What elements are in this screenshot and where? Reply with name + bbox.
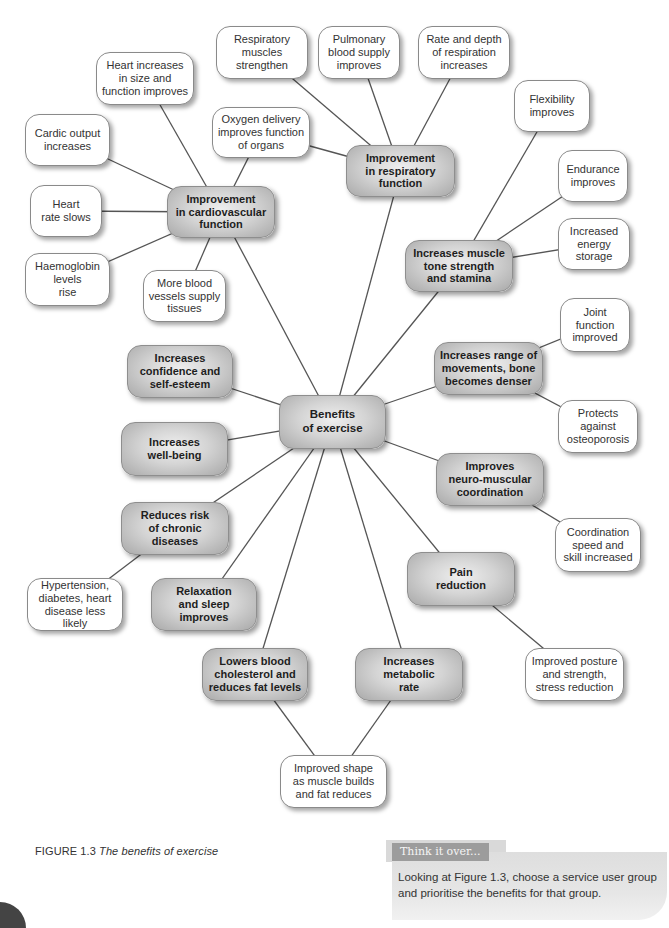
node-wellbeing: Increases well-being xyxy=(121,422,228,476)
node-muscle: Increases muscle tone strength and stami… xyxy=(405,240,513,292)
node-label: Increases well-being xyxy=(148,436,202,462)
node-label: Heart increases in size and function imp… xyxy=(102,59,188,98)
node-energy: Increased energy storage xyxy=(558,218,630,270)
node-metabolic: Increases metabolic rate xyxy=(355,648,463,701)
node-label: Increases metabolic rate xyxy=(383,655,434,694)
node-label: Improvement in cardiovascular function xyxy=(176,193,267,232)
node-label: Improvement in respiratory function xyxy=(365,152,435,191)
node-joint: Joint function improved xyxy=(560,298,630,352)
node-heart-rate: Heart rate slows xyxy=(30,185,102,237)
node-label: Benefits of exercise xyxy=(302,408,362,435)
node-pulmonary: Pulmonary blood supply improves xyxy=(318,26,400,79)
node-neuro: Improves neuro-muscular coordination xyxy=(436,453,544,506)
node-label: Rate and depth of respiration increases xyxy=(426,33,501,72)
node-cholesterol: Lowers blood cholesterol and reduces fat… xyxy=(202,648,308,701)
figure-number: FIGURE 1.3 xyxy=(35,845,96,857)
node-label: Heart rate slows xyxy=(41,198,91,224)
node-label: Increases confidence and self-esteem xyxy=(140,352,221,391)
node-label: Haemoglobin levels rise xyxy=(35,260,100,299)
node-resp-muscles: Respiratory muscles strengthen xyxy=(216,26,308,79)
figure-caption: FIGURE 1.3 The benefits of exercise xyxy=(35,845,218,857)
node-label: Improved posture and strength, stress re… xyxy=(532,655,618,694)
node-label: Increased energy storage xyxy=(570,225,618,264)
node-label: Cardic output increases xyxy=(35,127,100,153)
node-label: Improves neuro-muscular coordination xyxy=(448,460,531,499)
think-it-over-box: Think it over... Looking at Figure 1.3, … xyxy=(386,840,667,918)
node-label: Reduces risk of chronic diseases xyxy=(141,509,209,548)
page-corner-decoration xyxy=(0,902,26,928)
node-label: Protects against osteoporosis xyxy=(567,407,629,446)
node-label: Increases muscle tone strength and stami… xyxy=(413,247,505,286)
node-cardic-output: Cardic output increases xyxy=(25,114,110,166)
node-label: Pulmonary blood supply improves xyxy=(328,33,390,72)
node-flexibility: Flexibility improves xyxy=(514,80,590,132)
think-title: Think it over... xyxy=(392,843,489,861)
node-shape: Improved shape as muscle builds and fat … xyxy=(280,755,387,808)
node-osteoporosis: Protects against osteoporosis xyxy=(558,400,638,453)
node-confidence: Increases confidence and self-esteem xyxy=(127,345,233,398)
node-benefits: Benefits of exercise xyxy=(279,395,386,449)
node-label: Improved shape as muscle builds and fat … xyxy=(293,762,374,801)
node-label: Relaxation and sleep improves xyxy=(176,585,232,624)
node-label: More blood vessels supply tissues xyxy=(149,277,221,316)
node-coordination: Coordination speed and skill increased xyxy=(555,518,641,572)
think-text: Looking at Figure 1.3, choose a service … xyxy=(398,869,660,901)
node-hypertension: Hypertension, diabetes, heart disease le… xyxy=(27,578,123,631)
node-label: Pain reduction xyxy=(436,566,486,592)
node-haemoglobin: Haemoglobin levels rise xyxy=(25,253,110,306)
node-heart-size: Heart increases in size and function imp… xyxy=(96,52,194,105)
connector-line xyxy=(333,422,410,675)
node-relax: Relaxation and sleep improves xyxy=(151,578,257,631)
node-label: Hypertension, diabetes, heart disease le… xyxy=(32,579,118,631)
mind-map-diagram: Benefits of exerciseImprovement in cardi… xyxy=(0,0,669,830)
node-label: Respiratory muscles strengthen xyxy=(234,33,290,72)
node-posture: Improved posture and strength, stress re… xyxy=(525,648,624,701)
node-oxygen: Oxygen delivery improves function of org… xyxy=(212,107,310,158)
node-range: Increases range of movements, bone becom… xyxy=(434,342,543,395)
node-cardio: Improvement in cardiovascular function xyxy=(167,186,275,238)
node-label: Flexibility improves xyxy=(529,93,574,119)
node-rate-depth: Rate and depth of respiration increases xyxy=(418,26,510,79)
node-label: Endurance improves xyxy=(566,163,619,189)
node-blood-vessels: More blood vessels supply tissues xyxy=(143,270,226,322)
node-chronic: Reduces risk of chronic diseases xyxy=(121,502,229,555)
node-resp: Improvement in respiratory function xyxy=(346,145,455,197)
node-label: Joint function improved xyxy=(572,306,617,345)
node-label: Coordination speed and skill increased xyxy=(563,526,632,565)
node-endurance: Endurance improves xyxy=(558,150,628,202)
figure-title: The benefits of exercise xyxy=(99,845,218,857)
connector-line xyxy=(255,422,333,675)
node-label: Increases range of movements, bone becom… xyxy=(440,349,537,388)
node-label: Oxygen delivery improves function of org… xyxy=(218,113,304,152)
node-pain: Pain reduction xyxy=(407,552,515,606)
node-label: Lowers blood cholesterol and reduces fat… xyxy=(209,655,301,694)
connector-line xyxy=(333,171,401,422)
